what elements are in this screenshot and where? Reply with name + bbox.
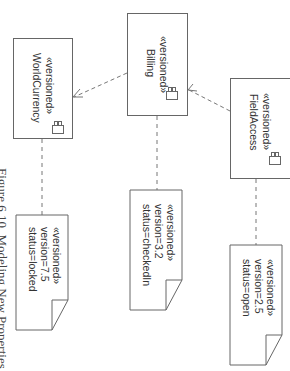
stereotype-label: «versioned» bbox=[261, 93, 273, 150]
note-fieldaccess: «versioned» version=2.5 status=open bbox=[230, 245, 282, 365]
component-name: FieldAccess bbox=[248, 94, 260, 151]
note-status: status=open bbox=[241, 259, 253, 317]
arrowhead-icon bbox=[188, 84, 197, 91]
note-status: status=locked bbox=[27, 227, 39, 292]
dependency-fieldaccess-to-billing bbox=[189, 90, 230, 111]
diagram-canvas: «versioned» WorldCurrency «versioned» Bi… bbox=[0, 0, 290, 371]
component-fieldaccess[interactable]: «versioned» FieldAccess bbox=[230, 78, 290, 179]
note-billing: «versioned» version=3.2 status=checkedIn bbox=[130, 190, 182, 310]
note-stereotype: «versioned» bbox=[265, 259, 277, 316]
note-version: version=2.5 bbox=[253, 259, 265, 314]
note-worldcurrency: «versioned» version=7.5 status=locked bbox=[16, 215, 68, 330]
arrowhead-icon bbox=[73, 89, 83, 97]
note-version: version=3.2 bbox=[153, 204, 165, 259]
component-worldcurrency[interactable]: «versioned» WorldCurrency bbox=[13, 38, 73, 139]
component-billing[interactable]: «versioned» Billing bbox=[127, 13, 188, 116]
component-name: Billing bbox=[145, 49, 157, 77]
note-version: version=7.5 bbox=[39, 227, 51, 282]
stereotype-label: «versioned» bbox=[158, 36, 170, 93]
note-stereotype: «versioned» bbox=[51, 227, 63, 284]
component-icon bbox=[52, 121, 64, 134]
component-name: WorldCurrency bbox=[31, 53, 43, 123]
note-stereotype: «versioned» bbox=[165, 204, 177, 261]
note-status: status=checkedIn bbox=[141, 204, 153, 286]
figure-caption: Figure 6.10. Modeling New Properties bbox=[0, 168, 10, 369]
stereotype-label: «versioned» bbox=[44, 57, 56, 114]
dependency-billing-to-worldcurrency bbox=[74, 73, 127, 97]
component-icon bbox=[166, 87, 178, 100]
component-icon bbox=[269, 152, 281, 165]
